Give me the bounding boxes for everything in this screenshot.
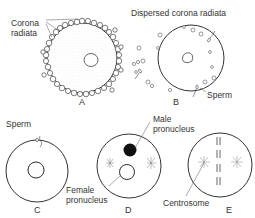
label-female-line2: pronucleus <box>66 195 108 205</box>
cell-c <box>6 136 68 202</box>
male-pronucleus <box>124 144 137 157</box>
label-sperm-c: Sperm <box>6 119 31 129</box>
label-corona-line2: radiata <box>11 28 39 38</box>
cell-b <box>132 25 224 97</box>
label-sperm-b: Sperm <box>207 90 232 100</box>
label-female-line1: Female <box>66 185 108 195</box>
cell-e <box>186 133 252 197</box>
label-male-line2: pronucleus <box>153 124 195 134</box>
panel-letter-d: D <box>125 205 132 215</box>
label-male-pronucleus: Male pronucleus <box>153 114 195 134</box>
label-corona-line1: Corona <box>11 18 39 28</box>
leader-line-a <box>46 19 78 20</box>
label-corona-radiata: Corona radiata <box>11 18 39 38</box>
panel-letter-e: E <box>226 205 232 215</box>
label-female-pronucleus: Female pronucleus <box>66 185 108 205</box>
panel-letter-a: A <box>79 97 85 107</box>
cell-a <box>41 18 123 97</box>
panel-letter-b: B <box>173 97 179 107</box>
label-male-line1: Male <box>153 114 195 124</box>
panel-letter-c: C <box>34 205 41 215</box>
label-dispersed-corona: Dispersed corona radiata <box>131 8 226 18</box>
label-centrosome: Centrosome <box>163 198 209 208</box>
